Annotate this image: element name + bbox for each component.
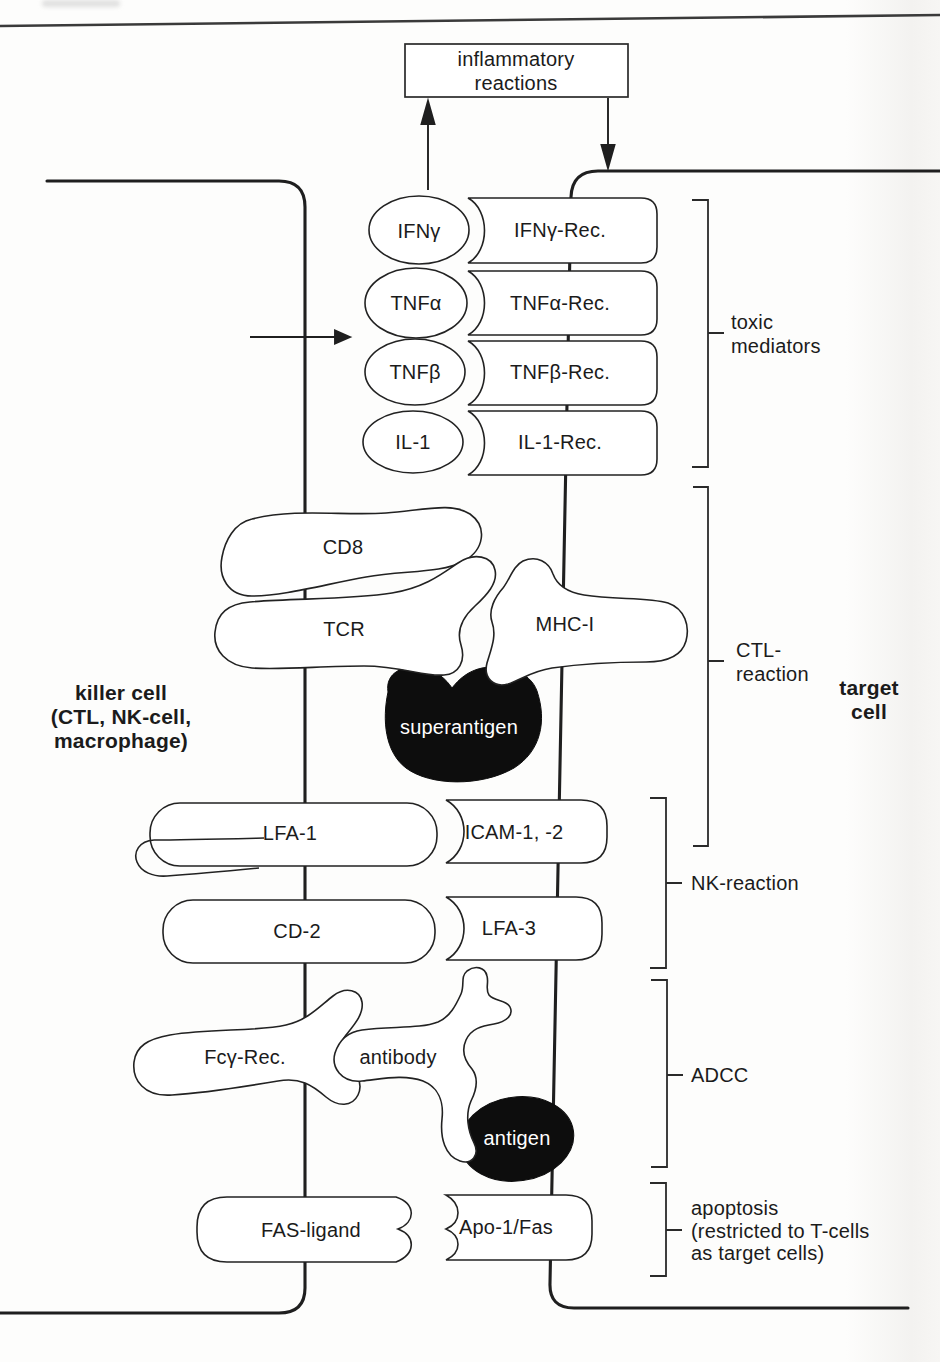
inflammatory-line1: inflammatory <box>458 47 575 71</box>
antigen-label: antigen <box>483 1126 550 1150</box>
cd2-label: CD-2 <box>273 919 320 943</box>
lfa1-label: LFA-1 <box>263 821 317 845</box>
apoptosis-line1: apoptosis <box>691 1197 870 1220</box>
tcr-label: TCR <box>323 617 365 641</box>
lfa3-label: LFA-3 <box>482 916 536 940</box>
killer-cell-label: killer cell (CTL, NK-cell, macrophage) <box>51 681 191 753</box>
toxic-mediators-label: toxic mediators <box>731 310 821 358</box>
ctl-line1: CTL- <box>736 638 809 662</box>
ligand-label-ifng: IFNγ <box>397 219 440 243</box>
arrow-up-head <box>422 101 435 124</box>
toxic-line1: toxic <box>731 310 821 334</box>
adcc-label: ADCC <box>691 1063 748 1087</box>
killer-cell-line1: killer cell <box>51 681 191 705</box>
toxic-line2: mediators <box>731 334 821 358</box>
apoptosis-line3: as target cells) <box>691 1242 870 1265</box>
superantigen-label: superantigen <box>400 715 518 739</box>
target-cell-label: target cell <box>839 676 899 724</box>
receptor-label-tnfb: TNFβ-Rec. <box>510 360 610 384</box>
bracket-apoptosis <box>650 1183 682 1276</box>
target-cell-line1: target <box>839 676 899 700</box>
receptor-label-tnfa: TNFα-Rec. <box>510 291 610 315</box>
ligand-label-il1: IL-1 <box>395 430 430 454</box>
receptor-label-il1: IL-1-Rec. <box>518 430 602 454</box>
target-cell-line2: cell <box>839 700 899 724</box>
fc-gamma-receptor-label: Fcγ-Rec. <box>204 1045 286 1069</box>
ligand-label-tnfb: TNFβ <box>389 360 440 384</box>
ctl-line2: reaction <box>736 662 809 686</box>
mhc1-label: MHC-I <box>536 612 595 636</box>
scanned-figure-page: inflammatory reactions IFNγ IFNγ-Rec. TN… <box>0 0 940 1362</box>
apoptosis-label: apoptosis (restricted to T-cells as targ… <box>691 1197 870 1265</box>
apo1-fas-label: Apo-1/Fas <box>459 1215 553 1239</box>
arrow-down-head <box>602 145 615 168</box>
arrow-into-cell-head <box>335 331 350 344</box>
inflammatory-reactions-label: inflammatory reactions <box>458 47 575 95</box>
killer-cell-line3: macrophage) <box>51 729 191 753</box>
inflammatory-line2: reactions <box>458 71 575 95</box>
bracket-toxic-mediators <box>692 200 724 467</box>
bracket-nk-reaction <box>650 798 682 968</box>
antibody-label: antibody <box>359 1045 436 1069</box>
bracket-ctl-reaction <box>693 487 724 846</box>
cd8-label: CD8 <box>323 535 364 559</box>
nk-reaction-label: NK-reaction <box>691 871 799 895</box>
fas-ligand-label: FAS-ligand <box>261 1218 361 1242</box>
ligand-label-tnfa: TNFα <box>390 291 441 315</box>
icam-label: ICAM-1, -2 <box>465 820 564 844</box>
page-top-rule <box>0 15 940 26</box>
killer-cell-line2: (CTL, NK-cell, <box>51 705 191 729</box>
ctl-reaction-label: CTL- reaction <box>736 638 809 686</box>
apoptosis-line2: (restricted to T-cells <box>691 1220 870 1243</box>
bracket-adcc <box>651 980 683 1167</box>
receptor-label-ifng: IFNγ-Rec. <box>514 218 606 242</box>
